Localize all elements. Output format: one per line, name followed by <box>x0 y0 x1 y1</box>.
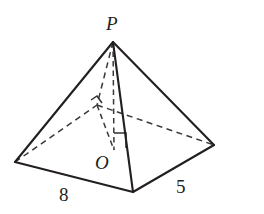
label-center-o: O <box>95 153 109 172</box>
label-base-length: 8 <box>59 185 69 204</box>
angle-marker-back-vertex <box>91 96 102 103</box>
hidden-edge-left-to-back <box>15 105 97 162</box>
label-apex-p: P <box>106 14 118 33</box>
pyramid-figure: P O 8 5 <box>0 0 264 214</box>
hidden-altitude-apex-to-center <box>113 42 114 150</box>
edge-base-left-front <box>15 162 133 192</box>
edge-apex-to-right <box>113 42 214 145</box>
hidden-diagonal-back-to-center <box>97 105 114 150</box>
edge-apex-to-left <box>15 42 113 162</box>
pyramid-drawing <box>0 0 264 214</box>
right-angle-marker-center <box>114 133 126 148</box>
edge-base-front-right <box>133 145 214 192</box>
label-base-width: 5 <box>176 177 186 196</box>
